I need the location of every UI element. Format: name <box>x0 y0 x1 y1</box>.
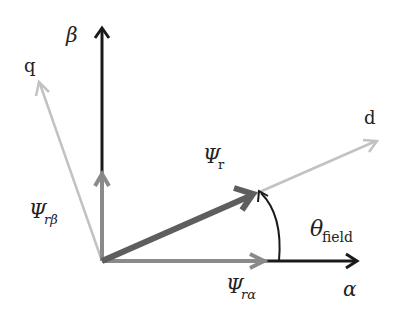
beta-axis-label: β <box>65 23 78 47</box>
svg-text:field: field <box>322 229 353 245</box>
theta-field-arc <box>258 191 280 261</box>
vector-diagram: β q d α Ψ r Ψ rβ Ψ rα θ field <box>0 0 395 317</box>
psi-r-beta-label: Ψ rβ <box>29 199 58 227</box>
psi-r-vector <box>102 188 253 261</box>
q-axis <box>36 82 102 261</box>
d-axis-label: d <box>364 107 376 128</box>
psi-r-label: Ψ r <box>203 144 225 172</box>
alpha-axis-label: α <box>343 277 357 301</box>
svg-text:rβ: rβ <box>44 212 58 227</box>
theta-field-label: θ field <box>310 216 353 245</box>
svg-text:r: r <box>218 157 225 172</box>
psi-r-alpha-label: Ψ rα <box>226 274 256 302</box>
q-axis-label: q <box>24 55 36 76</box>
psi-r-alpha-vector <box>102 254 264 268</box>
svg-text:rα: rα <box>241 287 256 302</box>
